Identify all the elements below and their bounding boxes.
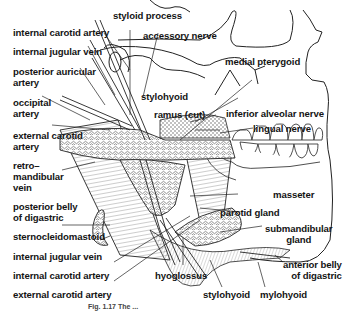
label-styloid-process: styloid process xyxy=(113,10,182,21)
label-line: gland xyxy=(265,234,332,245)
label-line: submandibular xyxy=(265,223,332,234)
label-ramus-cut: ramus (cut) xyxy=(154,109,205,120)
label-external-carotid-artery-mid: external carotid artery xyxy=(13,130,83,152)
label-internal-jugular-vein-top: internal jugular vein xyxy=(13,46,102,57)
label-posterior-belly-of-digastric: posterior belly of digastric xyxy=(13,201,78,223)
label-accessory-nerve: accessory nerve xyxy=(143,30,217,41)
label-stylohyoid-top: stylohyoid xyxy=(141,91,188,102)
label-line: artery xyxy=(13,108,51,119)
label-retromandibular-vein: retro– mandibular vein xyxy=(13,160,64,193)
label-line: occipital xyxy=(13,97,51,108)
label-line: of digastric xyxy=(13,212,78,223)
label-occipital-artery: occipital artery xyxy=(13,97,51,119)
label-lingual-nerve: lingual nerve xyxy=(253,123,311,134)
label-line: posterior belly xyxy=(13,201,78,212)
label-line: vein xyxy=(13,182,64,193)
label-line: of digastric xyxy=(283,270,342,281)
label-parotid-gland: parotid gland xyxy=(220,207,279,218)
label-line: retro– xyxy=(13,160,64,171)
label-sternocleidomastoid: sternocleidomastoid xyxy=(13,231,105,242)
label-line: external carotid xyxy=(13,130,83,141)
label-line: mandibular xyxy=(13,171,64,182)
label-line: anterior belly xyxy=(283,259,342,270)
figure-caption: Fig. 1.17 The ... xyxy=(88,303,138,310)
label-mylohyoid: mylohyoid xyxy=(260,289,307,300)
label-external-carotid-artery-bottom: external carotid artery xyxy=(13,289,111,300)
label-masseter: masseter xyxy=(273,189,314,200)
label-line: artery xyxy=(13,77,96,88)
label-submandibular-gland: submandibular gland xyxy=(265,223,332,245)
label-inferior-alveolar-nerve: inferior alveolar nerve xyxy=(226,108,324,119)
label-hyoglossus: hyoglossus xyxy=(155,270,207,281)
label-stylohyoid-bottom: stylohyoid xyxy=(203,289,250,300)
label-posterior-auricular-artery: posterior auricular artery xyxy=(13,66,96,88)
label-internal-carotid-artery-top: internal carotid artery xyxy=(13,27,109,38)
label-medial-pterygoid: medial pterygoid xyxy=(225,56,300,67)
label-anterior-belly-of-digastric: anterior belly of digastric xyxy=(283,259,342,281)
label-line: posterior auricular xyxy=(13,66,96,77)
label-internal-carotid-artery-bottom: internal carotid artery xyxy=(13,270,109,281)
label-internal-jugular-vein-bottom: internal jugular vein xyxy=(13,251,102,262)
label-line: artery xyxy=(13,141,83,152)
